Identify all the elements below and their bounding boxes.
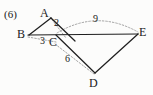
- edge-d-e: [95, 34, 138, 73]
- edge-weight-ac: 2: [54, 18, 59, 28]
- edge-b-a: [29, 18, 51, 35]
- figure-canvas: [0, 0, 153, 95]
- vertex-label-a: A: [40, 7, 49, 19]
- vertex-label-e: E: [139, 26, 146, 38]
- measure-line-cd: [55, 44, 94, 74]
- edge-weight-be: 9: [93, 14, 98, 24]
- vertex-label-b: B: [17, 28, 25, 40]
- edge-weight-bc: 3: [40, 36, 45, 46]
- edge-weight-cd: 6: [65, 54, 70, 64]
- vertex-label-c: C: [49, 36, 57, 48]
- geometry-figure: (6) A B C D E 2 3 6 9: [0, 0, 153, 95]
- question-number: (6): [4, 9, 17, 20]
- vertex-label-d: D: [89, 77, 98, 89]
